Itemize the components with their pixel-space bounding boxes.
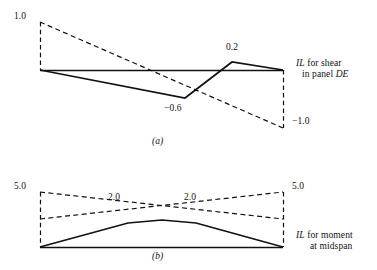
panel-b-graphics xyxy=(40,192,284,248)
figure-root: 1.0 0.2 −0.6 −1.0 IL for shear in panel … xyxy=(0,0,377,270)
panel-a-construction-dashed xyxy=(40,22,283,128)
panel-b-annotation: IL for moment at midspan xyxy=(296,230,353,252)
panel-b-annotation-line1-rest: for moment xyxy=(305,230,353,240)
panel-b-label-2-0-right: 2.0 xyxy=(184,192,196,203)
panel-a-label-neg-1-0: −1.0 xyxy=(292,116,310,127)
panel-a-label-neg-0-6: −0.6 xyxy=(164,103,182,114)
panel-a-influence-line xyxy=(40,62,283,98)
panel-b-influence-line xyxy=(40,220,283,247)
panel-b-label-5-0-left: 5.0 xyxy=(14,181,26,192)
panel-a-graphics xyxy=(40,22,284,128)
panel-a-annotation-member: DE xyxy=(336,69,349,79)
panel-a-annotation: IL for shear in panel DE xyxy=(296,58,349,80)
panel-a-label-0-2: 0.2 xyxy=(226,42,238,53)
panel-a-annotation-line2: in panel DE xyxy=(296,69,349,80)
panel-b-annotation-line1-italic: IL xyxy=(296,230,305,240)
panel-b-label-5-0-right: 5.0 xyxy=(292,181,304,192)
panel-a-annotation-line1-rest: for shear xyxy=(305,58,342,68)
panel-b-annotation-line2: at midspan xyxy=(296,241,353,252)
panel-b-caption: (b) xyxy=(152,251,163,262)
panel-a-label-1-0: 1.0 xyxy=(14,11,26,22)
panel-a-caption: (a) xyxy=(152,136,163,147)
panel-a-annotation-line1-italic: IL xyxy=(296,58,305,68)
panel-b-label-2-0-left: 2.0 xyxy=(108,192,120,203)
